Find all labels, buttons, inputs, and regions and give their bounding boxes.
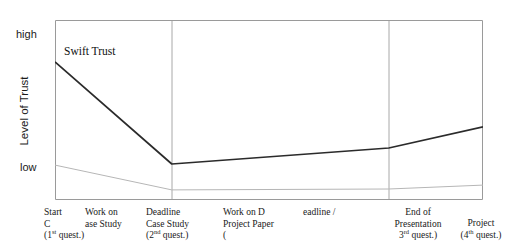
plot-area [55,20,483,200]
chart-figure: high low Level of Trust Swift Trust Star… [0,0,511,250]
series-line-secondary [55,165,483,190]
series-line-swift-trust [55,62,483,164]
y-axis-title: Level of Trust [18,63,30,159]
plot-frame [56,21,483,200]
x-label-project: Project (4th quest.) [452,218,510,241]
x-label-start-course: Start C (1st quest.) [44,207,84,242]
x-label-end-of-presentation: End of Presentation 3rd quest.) [376,207,460,242]
y-axis-low-label: low [20,161,37,173]
y-axis-high-label: high [16,28,37,40]
x-label-deadline-fragment: eadline / [303,207,335,219]
x-label-work-on-case-study: Work on ase Study [85,207,122,230]
x-label-deadline-case-study: Deadline Case Study (2nd quest.) [146,207,189,242]
chart-svg [55,20,483,200]
x-label-work-on-project-paper: Work on D Project Paper ( [223,207,274,242]
swift-trust-annotation: Swift Trust [64,45,115,57]
